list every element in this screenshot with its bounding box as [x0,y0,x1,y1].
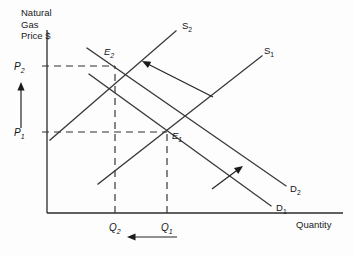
demand-shift-arrow-head [234,166,243,174]
quantity-tick-label-q1: Q1 [161,222,173,235]
axes-group [47,30,343,213]
curve-label-d1: D1 [276,202,287,215]
curve-label-s2: S2 [182,20,192,33]
x-axis-title: Quantity [296,219,332,230]
quantity-decrease-arrow-head [127,233,136,240]
equilibrium-label-e2: E2 [104,46,114,59]
curve-labels-group: S2S1D2D1 [182,20,301,215]
curve-d2 [87,48,286,186]
curve-label-d2: D2 [290,183,301,196]
equilibrium-label-e1: E1 [172,130,182,143]
price-tick-label-p1: P1 [14,127,25,140]
price-tick-label-p2: P2 [14,61,25,74]
diagram-canvas: S2S1D2D1 E2E1 P2P1Q2Q1 Quantity [0,0,353,256]
quantity-tick-label-q2: Q2 [109,222,121,235]
tick-labels-group: P2P1Q2Q1 [14,61,173,235]
shift-arrows-group [17,61,243,241]
guide-lines-group [42,66,167,213]
curves-group [50,31,286,206]
supply-demand-diagram: Natural Gas Price $ S2S1D2D1 E2E1 P2P1Q2… [0,0,353,256]
price-increase-arrow-head [17,82,24,91]
curve-label-s1: S1 [264,45,274,58]
supply-shift-arrow-shaft [148,64,213,97]
curve-s1 [98,56,262,184]
